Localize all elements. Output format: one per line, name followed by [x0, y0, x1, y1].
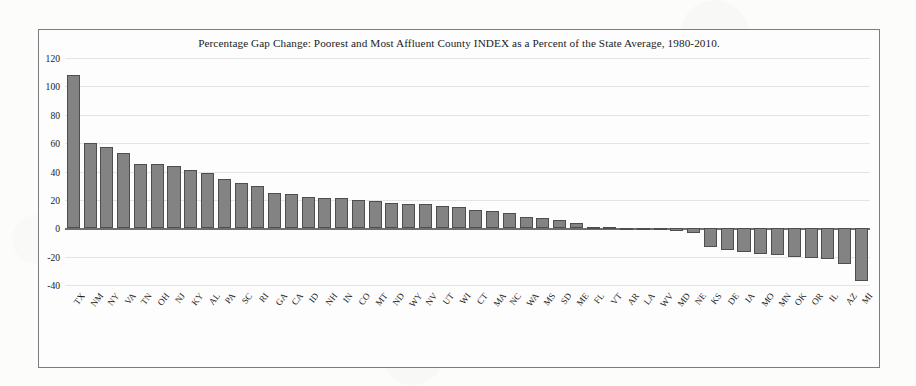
- bar-slot: ID: [300, 58, 317, 285]
- bar: [637, 228, 650, 230]
- bar: [620, 228, 633, 230]
- y-axis-tick-label: 60: [50, 138, 60, 149]
- y-axis-tick-label: 20: [50, 194, 60, 205]
- x-axis-tick-label: DE: [726, 291, 741, 307]
- bar-slot: TX: [65, 58, 82, 285]
- bar-slot: NH: [316, 58, 333, 285]
- bar-slot: GA: [266, 58, 283, 285]
- bar: [419, 204, 432, 228]
- x-axis-tick-label: UT: [441, 291, 456, 307]
- bar-slot: NV: [417, 58, 434, 285]
- gridline: [65, 285, 870, 286]
- bar: [84, 143, 97, 228]
- bar-slot: MS: [534, 58, 551, 285]
- chart-page: Percentage Gap Change: Poorest and Most …: [0, 0, 916, 386]
- x-axis-tick-label: WI: [458, 291, 473, 306]
- bar: [704, 228, 717, 246]
- x-axis-tick-label: ID: [307, 291, 321, 305]
- x-axis-tick-label: NH: [323, 291, 339, 307]
- x-axis-tick-label: NE: [692, 291, 707, 307]
- x-axis-tick-label: TN: [139, 291, 154, 307]
- bar: [151, 164, 164, 228]
- x-axis-tick-label: IN: [341, 291, 355, 305]
- x-axis-tick-label: NM: [88, 291, 105, 309]
- bar-slot: SC: [233, 58, 250, 285]
- x-axis-tick-label: MD: [675, 291, 692, 309]
- y-axis-tick-label: 0: [55, 223, 60, 234]
- x-axis-tick-label: OH: [156, 291, 172, 307]
- bar: [302, 197, 315, 228]
- x-axis-tick-label: MN: [776, 291, 793, 309]
- x-axis-tick-label: NC: [508, 291, 524, 307]
- bar-slot: MO: [752, 58, 769, 285]
- bar: [469, 210, 482, 228]
- bar-slot: ND: [384, 58, 401, 285]
- x-axis-tick-label: IA: [743, 291, 757, 305]
- bar: [385, 203, 398, 229]
- x-axis-tick-label: MI: [860, 291, 875, 306]
- bar-slot: DE: [719, 58, 736, 285]
- x-axis-tick-label: CT: [474, 291, 489, 306]
- x-axis-tick-label: NV: [424, 291, 440, 307]
- bar-slot: AR: [618, 58, 635, 285]
- bar: [536, 218, 549, 228]
- chart-frame: Percentage Gap Change: Poorest and Most …: [38, 29, 880, 368]
- bar-slot: TN: [132, 58, 149, 285]
- x-axis-tick-label: ME: [575, 291, 591, 308]
- bar: [268, 193, 281, 228]
- y-axis-tick-label: 100: [46, 81, 60, 92]
- x-axis-tick-label: KS: [709, 291, 724, 306]
- bar: [251, 186, 264, 229]
- bar: [570, 223, 583, 229]
- bar-slot: SD: [551, 58, 568, 285]
- bar-slot: VA: [115, 58, 132, 285]
- bar: [235, 183, 248, 228]
- bar-slot: ME: [568, 58, 585, 285]
- x-axis-tick-label: NJ: [173, 291, 187, 305]
- bar-slot: IN: [333, 58, 350, 285]
- x-axis-tick-label: AZ: [843, 291, 858, 307]
- bar: [771, 228, 784, 255]
- bar-slot: NM: [82, 58, 99, 285]
- bar-slot: KY: [182, 58, 199, 285]
- x-axis-tick-label: PA: [223, 291, 237, 306]
- bar-slot: CT: [467, 58, 484, 285]
- bar: [587, 227, 600, 229]
- x-axis-tick-label: WV: [658, 291, 675, 309]
- bar-slot: WA: [518, 58, 535, 285]
- x-axis-tick-label: SC: [240, 291, 255, 306]
- x-axis-tick-label: VA: [122, 291, 137, 306]
- bar-slot: IA: [736, 58, 753, 285]
- x-axis-tick-label: KY: [189, 291, 205, 307]
- bar-slot: WV: [652, 58, 669, 285]
- x-axis-tick-label: AR: [625, 291, 641, 307]
- bar: [67, 75, 80, 228]
- x-axis-tick-label: MO: [759, 291, 776, 309]
- x-axis-tick-label: RI: [257, 291, 270, 304]
- bar: [737, 228, 750, 252]
- bar: [486, 211, 499, 228]
- bar: [318, 198, 331, 228]
- x-axis-tick-label: TX: [72, 291, 87, 307]
- bar-slot: AL: [199, 58, 216, 285]
- bar: [352, 200, 365, 228]
- bar: [838, 228, 851, 263]
- bar-slot: KS: [702, 58, 719, 285]
- chart-title: Percentage Gap Change: Poorest and Most …: [39, 37, 879, 49]
- bar: [654, 228, 667, 230]
- plot-area: 120100806040200-20-40 TXNMNYVATNOHNJKYAL…: [65, 58, 870, 285]
- bar: [687, 228, 700, 232]
- bar-slot: MI: [853, 58, 870, 285]
- bar-slot: OR: [803, 58, 820, 285]
- x-axis-tick-label: LA: [642, 291, 657, 307]
- bar: [184, 170, 197, 228]
- x-axis-tick-label: VT: [608, 291, 623, 307]
- bar: [452, 207, 465, 228]
- x-axis-tick-label: MT: [374, 291, 390, 308]
- x-axis-tick-label: CO: [357, 291, 373, 307]
- bar-slot: AZ: [836, 58, 853, 285]
- bar: [167, 166, 180, 228]
- bar-slot: VT: [602, 58, 619, 285]
- bar: [436, 206, 449, 229]
- bar: [721, 228, 734, 249]
